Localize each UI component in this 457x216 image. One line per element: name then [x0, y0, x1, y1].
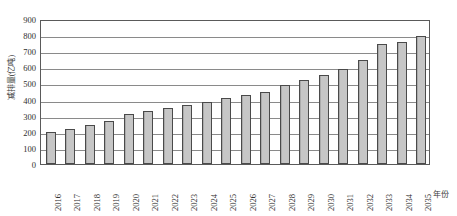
- bar: [182, 105, 192, 164]
- bar: [358, 60, 368, 164]
- bar: [65, 129, 75, 164]
- bar: [202, 102, 212, 164]
- y-axis-tick-label: 800: [10, 32, 36, 41]
- y-axis-tick-label: 700: [10, 48, 36, 57]
- x-axis-tick-label: 2035: [424, 171, 433, 211]
- x-axis-title: 年份: [433, 188, 449, 199]
- x-axis-tick-label: 2033: [385, 171, 394, 211]
- x-axis-tick-label: 2020: [132, 171, 141, 211]
- bar: [221, 98, 231, 164]
- bar: [338, 69, 348, 164]
- bar: [416, 36, 426, 164]
- bar: [299, 80, 309, 164]
- x-axis-tick-label: 2028: [288, 171, 297, 211]
- x-axis-tick-label: 2026: [249, 171, 258, 211]
- y-axis-tick-label: 0: [10, 161, 36, 170]
- bar: [319, 75, 329, 164]
- bar: [104, 121, 114, 165]
- y-axis-tick-label: 300: [10, 112, 36, 121]
- bar: [163, 108, 173, 164]
- x-axis-tick-label: 2034: [405, 171, 414, 211]
- x-axis-tick-label: 2017: [73, 171, 82, 211]
- y-axis-tick-label: 900: [10, 16, 36, 25]
- x-axis-tick-label: 2022: [171, 171, 180, 211]
- y-axis-tick-label: 500: [10, 80, 36, 89]
- y-axis-tick-label: 400: [10, 96, 36, 105]
- x-axis-tick-label: 2018: [93, 171, 102, 211]
- x-axis-tick-label: 2019: [112, 171, 121, 211]
- y-axis-tick-labels: 0100200300400500600700800900: [10, 20, 36, 165]
- x-axis-tick-label: 2016: [54, 171, 63, 211]
- x-axis-tick-label: 2023: [190, 171, 199, 211]
- bar: [397, 42, 407, 164]
- bar: [143, 111, 153, 164]
- x-axis-tick-label: 2025: [229, 171, 238, 211]
- bar: [241, 95, 251, 164]
- bars-layer: [41, 21, 429, 164]
- bar: [260, 92, 270, 165]
- bar: [85, 125, 95, 164]
- y-axis-tick-label: 100: [10, 145, 36, 154]
- bar: [124, 114, 134, 164]
- x-axis-tick-label: 2021: [151, 171, 160, 211]
- x-axis-tick-label: 2024: [210, 171, 219, 211]
- y-axis-tick-label: 200: [10, 129, 36, 138]
- x-axis-tick-labels: 2016201720182019202020212022202320242025…: [40, 165, 430, 216]
- plot-area: [40, 20, 430, 165]
- x-axis-tick-label: 2027: [268, 171, 277, 211]
- bar-chart: 减排量(亿吨) 0100200300400500600700800900 201…: [0, 0, 457, 216]
- y-axis-tick-label: 600: [10, 64, 36, 73]
- x-axis-tick-label: 2032: [366, 171, 375, 211]
- x-axis-tick-label: 2031: [346, 171, 355, 211]
- x-axis-tick-label: 2030: [327, 171, 336, 211]
- bar: [377, 44, 387, 164]
- bar: [46, 132, 56, 164]
- x-axis-tick-label: 2029: [307, 171, 316, 211]
- bar: [280, 85, 290, 164]
